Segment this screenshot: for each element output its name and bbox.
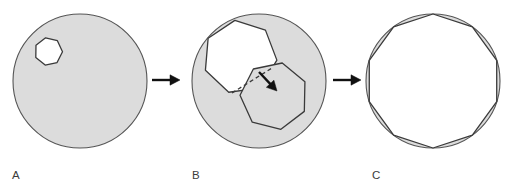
panels-group bbox=[13, 14, 500, 148]
arrow-a-to-b-head bbox=[170, 75, 180, 85]
panel-b-label: B bbox=[192, 169, 200, 181]
labels-group: ABC bbox=[12, 169, 381, 181]
panel-c-label: C bbox=[372, 169, 381, 181]
figure-container: ABC bbox=[0, 0, 511, 186]
panel-a-circle-domain bbox=[13, 14, 147, 148]
panel-a-label: A bbox=[12, 169, 20, 181]
panel-a-seed-heptagon bbox=[36, 38, 63, 65]
panel-b bbox=[192, 14, 326, 148]
panel-c bbox=[366, 14, 500, 148]
arrow-b-to-c-head bbox=[351, 75, 361, 85]
panel-c-final-inscribed-decagon bbox=[369, 14, 496, 148]
diagram-canvas: ABC bbox=[0, 0, 511, 186]
panel-a bbox=[13, 14, 147, 148]
